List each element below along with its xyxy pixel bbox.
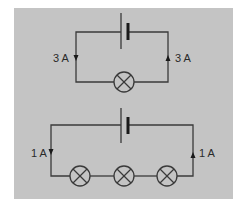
- arrow-up-icon: [191, 152, 196, 158]
- lamp-icon: [114, 72, 134, 92]
- lamp-icon: [70, 166, 90, 186]
- circuit-bottom: 1 A 1 A: [31, 108, 216, 186]
- lamp-icon: [157, 166, 177, 186]
- battery-icon: [121, 108, 128, 143]
- wire-top-right: [128, 32, 168, 82]
- wire-top-left: [76, 32, 121, 82]
- current-label-left: 1 A: [31, 147, 48, 159]
- lamp-icon: [114, 166, 134, 186]
- current-label-right: 3 A: [175, 52, 192, 64]
- arrow-down-icon: [74, 55, 79, 61]
- arrow-up-icon: [166, 55, 171, 61]
- current-label-left: 3 A: [53, 52, 70, 64]
- circuit-diagrams: 3 A 3 A 1 A: [0, 0, 244, 206]
- arrow-down-icon: [49, 149, 54, 155]
- battery-icon: [121, 13, 128, 49]
- current-label-right: 1 A: [199, 147, 216, 159]
- circuit-top: 3 A 3 A: [53, 13, 192, 92]
